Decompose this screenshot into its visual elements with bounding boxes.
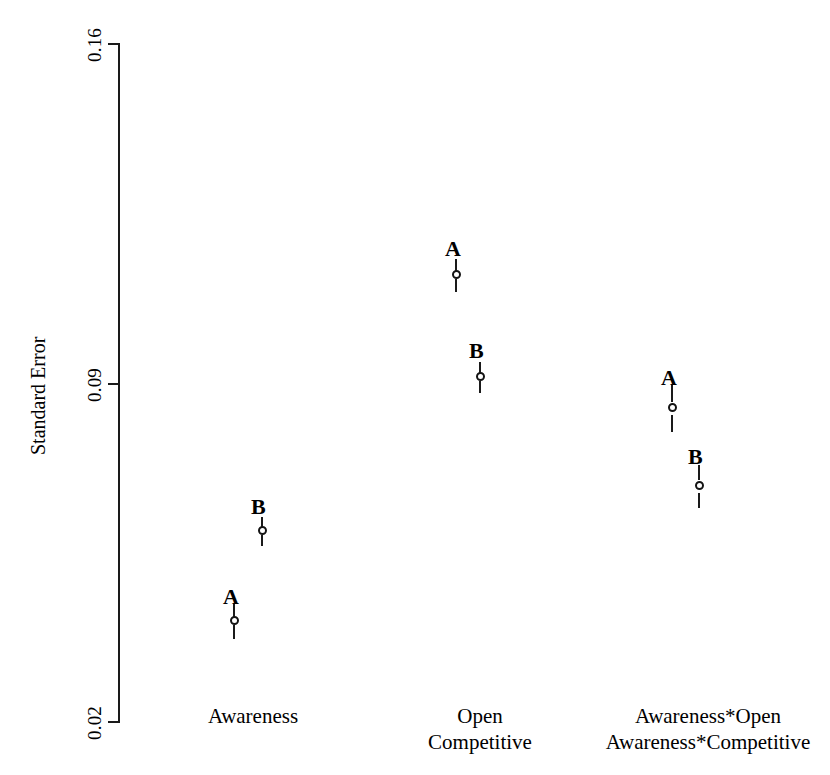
marker-circle (258, 526, 267, 535)
y-tick-0-09 (108, 383, 119, 385)
chart-figure: 0.16 0.09 0.02 Standard Error A B A B A (0, 0, 830, 775)
x-group-label-open-competitive: Open Competitive (395, 703, 565, 755)
series-label-open-b: B (469, 340, 484, 362)
series-label-awareness-a: A (223, 586, 239, 608)
series-label-interaction-b: B (688, 446, 703, 468)
x-group-line2: Competitive (395, 729, 565, 755)
x-group-label-awareness: Awareness (168, 703, 338, 729)
marker-circle (668, 403, 677, 412)
marker-circle (452, 270, 461, 279)
x-group-line1: Awareness*Open (635, 704, 781, 728)
marker-circle (695, 481, 704, 490)
error-bar-lower (261, 535, 263, 546)
x-group-line2: Awareness*Competitive (588, 729, 828, 755)
x-group-label-interactions: Awareness*Open Awareness*Competitive (588, 703, 828, 755)
error-bar-lower (698, 493, 700, 508)
y-tick-label-bottom: 0.02 (85, 706, 104, 740)
y-tick-0-16 (108, 43, 119, 45)
error-bar-lower (455, 279, 457, 292)
y-tick-0-02 (108, 721, 119, 723)
x-group-line1: Open (457, 704, 503, 728)
error-bar-lower (671, 415, 673, 432)
series-label-awareness-b: B (251, 496, 266, 518)
y-tick-label-top: 0.16 (85, 28, 104, 62)
error-bar-lower (233, 625, 235, 639)
error-bar-lower (479, 381, 481, 393)
series-label-interaction-a: A (661, 367, 677, 389)
series-label-open-a: A (445, 238, 461, 260)
x-group-line1: Awareness (208, 704, 298, 728)
y-tick-label-mid: 0.09 (85, 368, 104, 402)
y-axis-title: Standard Error (28, 337, 48, 455)
marker-circle (230, 616, 239, 625)
marker-circle (476, 372, 485, 381)
